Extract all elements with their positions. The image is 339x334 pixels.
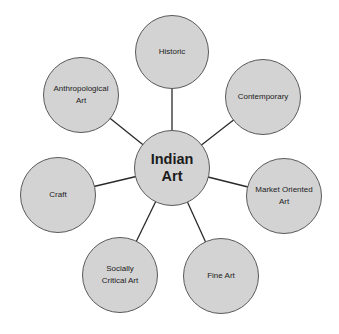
- label-line: Anthropological: [53, 84, 108, 93]
- label-line: Historic: [159, 47, 186, 56]
- node-fine-art: Fine Art: [183, 238, 259, 314]
- node-anthropological-art-label: Anthropological Art: [51, 83, 110, 107]
- node-historic-label: Historic: [157, 46, 188, 58]
- indian-art-diagram: Historic Contemporary Market Oriented Ar…: [0, 0, 339, 334]
- label-line: Contemporary: [238, 92, 289, 101]
- node-contemporary: Contemporary: [225, 59, 301, 135]
- label-line: Craft: [49, 190, 66, 199]
- center-label-line: Indian: [151, 151, 194, 167]
- label-line: Critical Art: [102, 276, 138, 285]
- label-line: Socially: [106, 264, 134, 273]
- node-socially-critical-art-label: Socially Critical Art: [100, 263, 140, 287]
- node-market-oriented-art-label: Market Oriented Art: [253, 184, 314, 208]
- center-label: Indian Art: [151, 151, 194, 185]
- center-label-line: Art: [162, 168, 183, 184]
- node-contemporary-label: Contemporary: [236, 91, 291, 103]
- node-socially-critical-art: Socially Critical Art: [82, 237, 158, 313]
- node-craft: Craft: [20, 157, 96, 233]
- node-market-oriented-art: Market Oriented Art: [246, 158, 322, 234]
- node-center-indian-art: Indian Art: [134, 130, 210, 206]
- label-line: Fine Art: [207, 271, 235, 280]
- label-line: Art: [279, 197, 289, 206]
- label-line: Market Oriented: [255, 185, 312, 194]
- label-line: Art: [76, 96, 86, 105]
- node-craft-label: Craft: [47, 189, 68, 201]
- node-historic: Historic: [135, 15, 209, 89]
- node-fine-art-label: Fine Art: [205, 270, 237, 282]
- node-anthropological-art: Anthropological Art: [43, 57, 119, 133]
